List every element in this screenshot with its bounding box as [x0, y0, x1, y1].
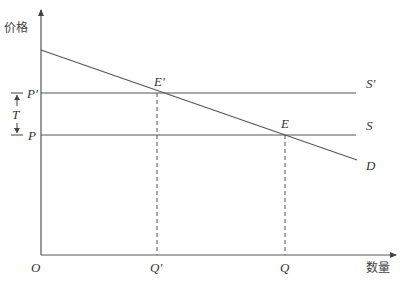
label-q-prime: Q'	[150, 260, 162, 275]
label-d: D	[365, 158, 376, 173]
tax-bracket: T	[11, 93, 23, 135]
label-tax: T	[12, 107, 20, 122]
label-e-prime: E'	[153, 74, 165, 89]
label-s: S	[366, 118, 373, 133]
x-axis-label: 数量	[366, 260, 390, 275]
label-s-prime: S'	[366, 76, 376, 91]
label-e: E	[280, 116, 289, 131]
label-p: P	[27, 128, 36, 143]
supply-demand-diagram: 价格 数量 O S' S D E' E P' P T Q' Q	[0, 0, 405, 285]
label-q: Q	[280, 260, 290, 275]
demand-curve-d	[41, 50, 357, 160]
y-axis-label: 价格	[4, 20, 28, 35]
label-p-prime: P'	[26, 86, 38, 101]
origin-label: O	[31, 260, 41, 275]
